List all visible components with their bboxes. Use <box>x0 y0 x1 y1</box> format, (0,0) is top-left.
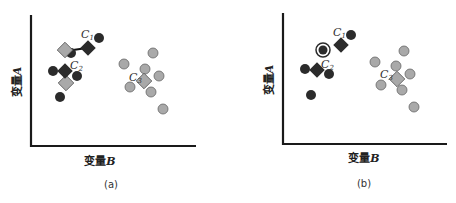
centroid-label-c1: C1 <box>81 28 94 42</box>
data-point <box>94 33 104 43</box>
data-point <box>48 66 58 76</box>
panel-b: C1 C2 C3 变量B 变量A (b) <box>262 13 447 189</box>
centroid-label-c2: C2 <box>70 59 83 73</box>
data-point <box>148 48 158 58</box>
data-point <box>146 87 156 97</box>
data-point <box>154 71 164 81</box>
y-axis-label: 变量A <box>10 66 24 97</box>
x-axis-label: 变量B <box>84 154 115 168</box>
centroid-label-c3: C3 <box>380 68 393 82</box>
centroid-label-c2: C2 <box>321 58 334 72</box>
highlighted-point <box>319 46 328 55</box>
data-point <box>158 104 168 114</box>
data-point <box>306 90 316 100</box>
data-point <box>140 64 150 74</box>
data-point <box>55 92 65 102</box>
data-point <box>397 85 407 95</box>
data-point <box>409 102 419 112</box>
data-point <box>391 61 401 71</box>
panel-a: C1 C2 C3 变量B 变量A (a) <box>10 15 196 190</box>
caption-a: (a) <box>104 179 118 190</box>
centroid-label-c3: C3 <box>129 71 142 85</box>
caption-b: (b) <box>357 178 371 189</box>
centroid-c1 <box>80 40 96 56</box>
data-point <box>399 46 409 56</box>
data-point <box>405 69 415 79</box>
x-axis-label: 变量B <box>348 151 379 165</box>
figure: C1 C2 C3 变量B 变量A (a) C1 C2 C3 <box>0 0 456 203</box>
data-point <box>370 57 380 67</box>
data-point <box>346 30 356 40</box>
y-axis-label: 变量A <box>262 64 276 95</box>
data-point <box>119 59 129 69</box>
centroid-label-c1: C1 <box>333 26 346 40</box>
data-point <box>300 64 310 74</box>
data-point <box>376 80 386 90</box>
